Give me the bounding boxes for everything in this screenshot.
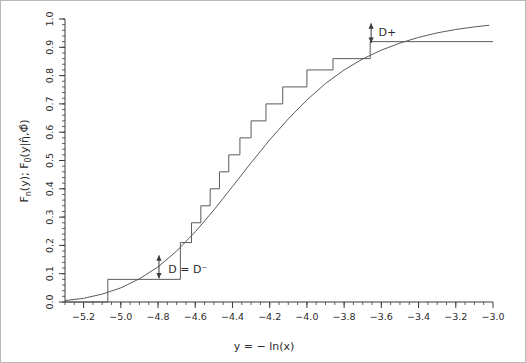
x-tick-label: −3.6 — [370, 311, 393, 322]
x-tick-group — [65, 302, 493, 308]
annotation-group: D+D = D⁻ — [156, 23, 396, 278]
x-tick-label: −5.2 — [72, 311, 95, 322]
x-tick-labels: −5.2−5.0−4.8−4.6−4.4−4.2−4.0−3.8−3.6−3.4… — [72, 311, 504, 322]
x-tick-label: −3.4 — [407, 311, 430, 322]
arrow-head-down — [369, 38, 374, 44]
x-tick-label: −4.4 — [221, 311, 244, 322]
y-tick-label: 0.4 — [44, 181, 55, 196]
y-tick-label: 0.2 — [44, 238, 55, 253]
y-tick-label: 0.0 — [44, 294, 55, 309]
y-axis-title: Fn(y); F0(y|η̂,Φ̂) — [18, 119, 33, 202]
y-tick-label: 0.8 — [44, 68, 55, 83]
empirical-cdf-path — [65, 42, 493, 302]
x-tick-label: −4.6 — [184, 311, 207, 322]
y-tick-group — [59, 19, 65, 302]
fitted-cdf-path — [65, 25, 489, 300]
x-axis-title: y = − ln(x) — [234, 340, 295, 353]
x-tick-label: −3.8 — [333, 311, 356, 322]
x-tick-label: −4.0 — [295, 311, 318, 322]
y-tick-label: 0.1 — [44, 266, 55, 281]
plot-area: −5.2−5.0−4.8−4.6−4.4−4.2−4.0−3.8−3.6−3.4… — [1, 1, 526, 363]
x-tick-label: −4.8 — [147, 311, 170, 322]
x-tick-label: −4.2 — [258, 311, 281, 322]
arrow-head-up — [369, 23, 374, 29]
y-tick-label: 1.0 — [44, 11, 55, 26]
annotation-label: D+ — [379, 26, 397, 39]
ylabel-fn-arg: (y); F — [18, 163, 31, 192]
annotation-label: D = D⁻ — [168, 263, 207, 276]
y-tick-label: 0.6 — [44, 125, 55, 140]
svg-text:Fn(y); F0(y|η̂,Φ̂): Fn(y); F0(y|η̂,Φ̂) — [18, 119, 33, 202]
x-tick-label: −5.0 — [109, 311, 132, 322]
y-tick-label: 0.5 — [44, 153, 55, 168]
y-tick-label: 0.3 — [44, 210, 55, 225]
y-tick-label: 0.7 — [44, 96, 55, 111]
arrow-head-up — [156, 255, 161, 261]
axes-group — [65, 19, 493, 302]
y-tick-labels: 0.00.10.20.30.40.50.60.70.80.91.0 — [44, 11, 55, 309]
x-tick-label: −3.2 — [444, 311, 467, 322]
x-tick-label: −3.0 — [481, 311, 504, 322]
fitted-cdf-curve — [65, 25, 489, 300]
figure-container: −5.2−5.0−4.8−4.6−4.4−4.2−4.0−3.8−3.6−3.4… — [0, 0, 526, 363]
arrow-head-down — [156, 273, 161, 279]
annotation-d-plus: D+ — [369, 23, 397, 43]
empirical-cdf-step — [65, 42, 493, 302]
annotation-d-minus: D = D⁻ — [156, 255, 207, 278]
ylabel-f0-arg: (y|η̂,Φ̂) — [18, 119, 31, 157]
y-tick-label: 0.9 — [44, 40, 55, 55]
